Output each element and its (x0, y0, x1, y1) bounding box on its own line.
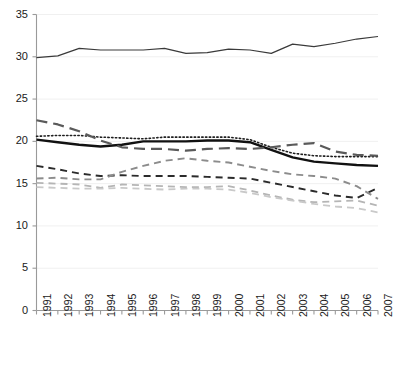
y-tick-label: 10 (2, 220, 28, 231)
series-line-mid-gray-dash-line (37, 158, 379, 199)
x-tick-label: 2002 (275, 293, 287, 316)
x-tick-label: 1999 (211, 293, 223, 316)
series-line-dark-dash-line-lower (37, 166, 379, 198)
x-tick-label: 2007 (382, 293, 394, 316)
x-tick-label: 1997 (169, 293, 181, 316)
y-tick-label: 0 (2, 305, 28, 316)
x-tick-label: 1995 (126, 293, 138, 316)
y-tick-label: 25 (2, 93, 28, 104)
x-tick-label: 2005 (339, 293, 351, 316)
y-tick-label: 15 (2, 178, 28, 189)
x-tick-label: 2001 (254, 293, 266, 316)
x-tick-label: 1998 (190, 293, 202, 316)
x-tick-label: 2006 (361, 293, 373, 316)
x-tick-label: 1994 (105, 293, 117, 316)
x-tick-label: 2000 (233, 293, 245, 316)
x-tick-label: 2003 (297, 293, 309, 316)
x-tick-label: 2004 (318, 293, 330, 316)
y-tick-label: 20 (2, 135, 28, 146)
series-line-thick-solid-black-line (37, 140, 379, 166)
x-tick-label: 1991 (41, 293, 53, 316)
x-tick-label: 1993 (83, 293, 95, 316)
x-tick-label: 1992 (62, 293, 74, 316)
series-line-light-gray-dash-line-b (37, 187, 379, 212)
y-tick-label: 30 (2, 51, 28, 62)
series-line-top-solid-line (37, 36, 379, 57)
y-tick-label: 5 (2, 262, 28, 273)
y-axis-ticks (33, 15, 37, 311)
x-tick-label: 1996 (147, 293, 159, 316)
y-tick-label: 35 (2, 9, 28, 20)
data-series-group (37, 36, 379, 212)
series-line-dark-gray-long-dash-line (37, 120, 379, 156)
